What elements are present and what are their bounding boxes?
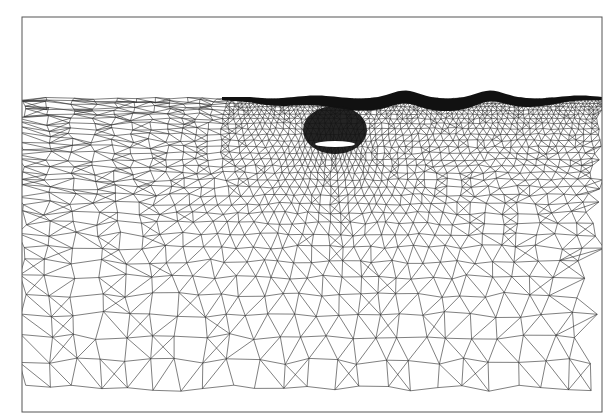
free-surface-refinement (222, 91, 602, 112)
domain-boundary (22, 17, 602, 412)
mesh-figure: Unstructured triangular finite-element m… (0, 0, 608, 415)
hydrofoil (315, 141, 355, 147)
triangular-mesh (0, 0, 608, 415)
